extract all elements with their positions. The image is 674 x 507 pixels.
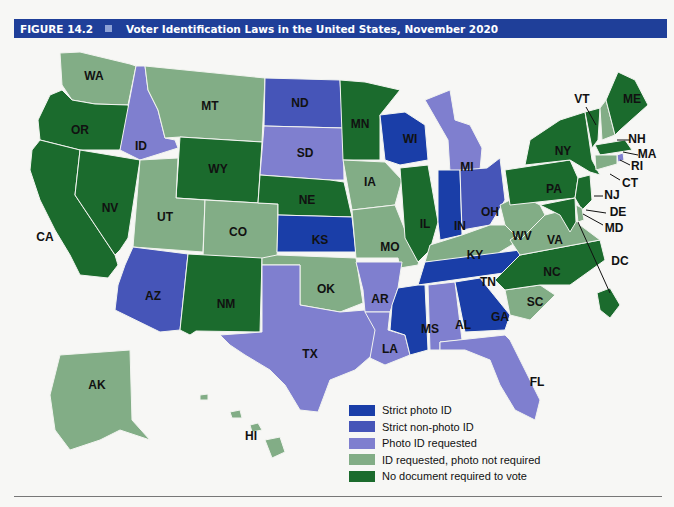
state-label-il: IL — [420, 217, 431, 231]
state-label-tn: TN — [480, 275, 496, 289]
legend-item: No document required to vote — [349, 468, 540, 485]
leader-line — [610, 174, 620, 180]
state-label-nc: NC — [543, 265, 561, 279]
state-label-pa: PA — [546, 182, 562, 196]
state-label-id: ID — [135, 139, 147, 153]
legend-swatch — [349, 454, 375, 465]
legend-item: ID requested, photo not required — [349, 452, 540, 469]
state-label-oh: OH — [481, 205, 499, 219]
state-nm — [180, 254, 262, 335]
state-label-mo: MO — [380, 240, 399, 254]
state-label-nv: NV — [102, 201, 119, 215]
state-label-fl: FL — [530, 375, 545, 389]
state-label-ne: NE — [299, 193, 316, 207]
state-label-la: LA — [382, 342, 398, 356]
state-label-dc: DC — [611, 254, 629, 268]
state-ak — [50, 350, 150, 450]
state-label-az: AZ — [145, 289, 161, 303]
legend-label: No document required to vote — [382, 470, 527, 482]
leader-line — [623, 152, 638, 155]
state-pa — [505, 160, 578, 205]
legend-item: Strict non-photo ID — [349, 419, 540, 436]
state-label-ca: CA — [36, 230, 54, 244]
state-label-nj: NJ — [604, 188, 619, 202]
state-label-wv: WV — [512, 229, 531, 243]
state-label-mi: MI — [460, 160, 473, 174]
state-label-ok: OK — [317, 282, 335, 296]
leader-line — [586, 210, 606, 213]
state-label-in: IN — [454, 219, 466, 233]
state-label-tx: TX — [302, 347, 317, 361]
state-label-wa: WA — [84, 69, 104, 83]
legend-label: ID requested, photo not required — [382, 454, 540, 466]
state-label-ar: AR — [371, 292, 389, 306]
state-label-ct: CT — [622, 176, 639, 190]
legend-swatch — [349, 438, 375, 449]
state-label-mt: MT — [201, 99, 219, 113]
state-label-ut: UT — [157, 210, 174, 224]
state-label-mn: MN — [351, 117, 370, 131]
legend-label: Strict photo ID — [382, 404, 452, 416]
legend-item: Strict photo ID — [349, 402, 540, 419]
state-label-ia: IA — [364, 175, 376, 189]
state-label-ri: RI — [631, 159, 643, 173]
state-ct — [595, 155, 617, 170]
state-label-ak: AK — [88, 378, 106, 392]
state-label-de: DE — [610, 205, 627, 219]
leader-line — [620, 160, 630, 165]
state-label-sc: SC — [527, 295, 544, 309]
state-label-vt: VT — [574, 92, 590, 106]
state-label-ny: NY — [555, 144, 572, 158]
legend-label: Photo ID requested — [382, 437, 477, 449]
us-map: WAORCANVIDMTWYUTCOAZNMNDSDNEKSOKTXMNIAMO… — [0, 0, 674, 507]
state-label-co: CO — [229, 225, 247, 239]
state-label-ga: GA — [491, 310, 509, 324]
legend-swatch — [349, 471, 375, 482]
leader-line — [583, 214, 603, 225]
state-label-ks: KS — [312, 233, 329, 247]
state-label-sd: SD — [297, 146, 314, 160]
state-label-nm: NM — [217, 297, 236, 311]
state-label-al: AL — [455, 318, 471, 332]
state-label-md: MD — [605, 221, 624, 235]
state-label-ky: KY — [467, 248, 484, 262]
legend-swatch — [349, 421, 375, 432]
state-nj — [575, 175, 592, 210]
state-label-or: OR — [71, 123, 89, 137]
state-label-wi: WI — [403, 132, 418, 146]
legend-item: Photo ID requested — [349, 435, 540, 452]
legend: Strict photo IDStrict non-photo IDPhoto … — [349, 402, 540, 485]
state-label-ms: MS — [421, 322, 439, 336]
state-label-hi: HI — [245, 429, 257, 443]
legend-swatch — [349, 405, 375, 416]
state-label-nd: ND — [291, 96, 309, 110]
bottom-rule — [14, 496, 662, 497]
state-label-wy: WY — [208, 162, 227, 176]
state-dc — [597, 288, 620, 318]
state-label-nh: NH — [628, 132, 645, 146]
legend-label: Strict non-photo ID — [382, 421, 474, 433]
state-hi — [200, 394, 285, 458]
state-label-va: VA — [547, 233, 563, 247]
state-label-me: ME — [623, 92, 641, 106]
